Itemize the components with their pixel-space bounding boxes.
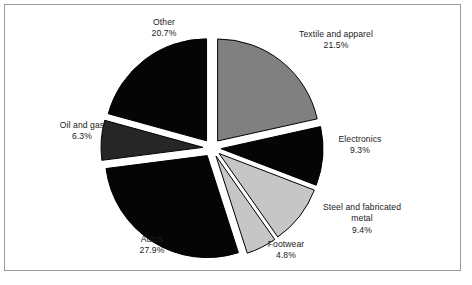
pie-label-steel-value: 9.4% <box>305 225 419 236</box>
pie-slice-textile-and-apparel <box>218 39 318 141</box>
pie-label-electronics-name: Electronics <box>323 134 397 145</box>
pie-label-oil-and-gas: Oil and gas 6.3% <box>44 120 120 143</box>
pie-label-footwear-name: Footwear <box>253 239 319 250</box>
pie-label-textile-value: 21.5% <box>270 40 402 51</box>
pie-label-footwear: Footwear 4.8% <box>253 239 319 262</box>
pie-label-steel: Steel and fabricated metal 9.4% <box>305 202 419 236</box>
pie-label-steel-name2: metal <box>305 213 419 224</box>
pie-label-electronics: Electronics 9.3% <box>323 134 397 157</box>
pie-slices-group <box>101 39 323 258</box>
pie-label-autos-name: Autos <box>122 234 182 245</box>
pie-label-textile-name: Textile and apparel <box>270 29 402 40</box>
pie-label-autos-value: 27.9% <box>122 245 182 256</box>
pie-label-other: Other 20.7% <box>128 17 200 40</box>
pie-label-steel-name: Steel and fabricated <box>305 202 419 213</box>
pie-chart-figure: Other 20.7% Textile and apparel 21.5% El… <box>0 0 472 285</box>
pie-label-other-name: Other <box>128 17 200 28</box>
pie-label-footwear-value: 4.8% <box>253 250 319 261</box>
pie-label-autos: Autos 27.9% <box>122 234 182 257</box>
pie-label-oil-and-gas-name: Oil and gas <box>44 120 120 131</box>
pie-label-electronics-value: 9.3% <box>323 145 397 156</box>
pie-label-oil-and-gas-value: 6.3% <box>44 131 120 142</box>
pie-label-other-value: 20.7% <box>128 28 200 39</box>
pie-label-textile: Textile and apparel 21.5% <box>270 29 402 52</box>
